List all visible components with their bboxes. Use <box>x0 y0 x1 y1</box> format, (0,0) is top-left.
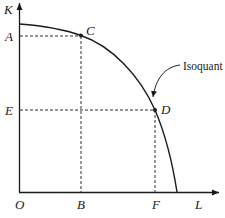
f-label: F <box>151 197 161 212</box>
isoquant-diagram: K A C E D Isoquant O B F L <box>0 0 225 218</box>
isoquant-curve <box>20 24 178 192</box>
isoquant-pointer-arrow <box>153 65 180 97</box>
point-d <box>153 108 157 112</box>
c-label: C <box>86 23 95 38</box>
point-c <box>79 34 83 38</box>
d-label: D <box>160 102 171 117</box>
isoquant-label: Isoquant <box>183 60 223 73</box>
a-label: A <box>4 29 13 44</box>
b-label: B <box>77 197 85 212</box>
k-axis-label: K <box>3 2 14 17</box>
l-axis-label: L <box>194 197 202 212</box>
origin-label: O <box>15 197 25 212</box>
e-label: E <box>4 103 13 118</box>
